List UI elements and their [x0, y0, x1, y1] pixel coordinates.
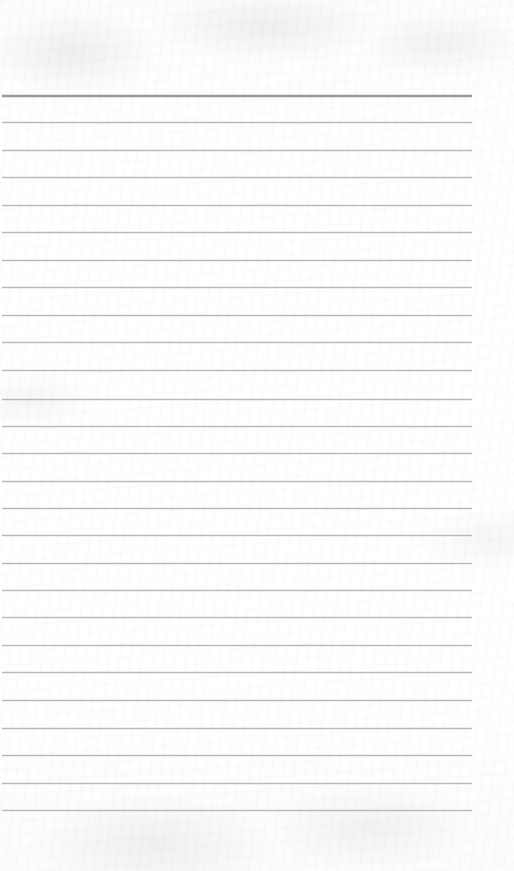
rule-line-5	[2, 205, 472, 206]
rule-line-25	[2, 755, 472, 756]
rule-line-21	[2, 645, 472, 646]
rule-line-18	[2, 563, 472, 564]
rule-line-19	[2, 590, 472, 591]
scanned-page	[0, 0, 514, 871]
rule-line-27	[2, 810, 472, 811]
rule-line-10	[2, 342, 472, 343]
ruled-lines-group	[0, 0, 514, 871]
rule-line-15	[2, 481, 472, 482]
rule-line-3	[2, 150, 472, 151]
rule-line-9	[2, 315, 472, 316]
rule-line-11	[2, 370, 472, 371]
rule-line-20	[2, 617, 472, 618]
rule-line-7	[2, 260, 472, 261]
rule-line-4	[2, 177, 472, 178]
rule-line-12	[2, 399, 472, 400]
rule-line-22	[2, 672, 472, 673]
rule-line-23	[2, 700, 472, 701]
rule-line-14	[2, 453, 472, 454]
rule-line-24	[2, 728, 472, 729]
rule-line-13	[2, 426, 472, 427]
rule-line-17	[2, 535, 472, 536]
rule-line-6	[2, 232, 472, 233]
rule-line-26	[2, 783, 472, 784]
rule-line-2	[2, 122, 472, 123]
rule-line-16	[2, 508, 472, 509]
rule-line-8	[2, 287, 472, 288]
rule-line-1	[2, 95, 472, 97]
